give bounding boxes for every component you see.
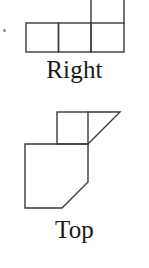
right-view: Right [0,0,149,90]
right-view-cell-0-1 [26,23,59,52]
top-view-upper-triangle [88,112,120,144]
right-view-label: Right [0,57,149,82]
top-view-lower-body [25,144,88,208]
top-view-upper-square [57,112,88,144]
drawing-page: Right Top [0,0,149,268]
top-view-label: Top [0,217,149,242]
right-view-cell-2-0 [91,0,124,23]
top-view: Top [0,95,149,255]
right-view-cell-2-1 [91,23,124,52]
right-view-cell-1-1 [59,23,92,52]
